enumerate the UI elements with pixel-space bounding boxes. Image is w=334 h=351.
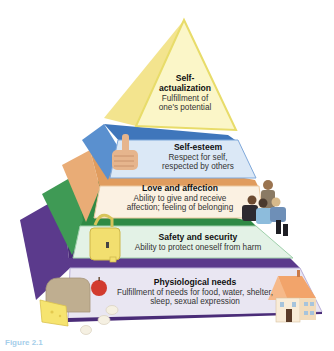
tier-title: Self-esteem [148, 143, 248, 153]
label-love-and-affection: Love and affection Ability to give and r… [112, 184, 248, 213]
tier-description: affection; feeling of belonging [112, 203, 248, 212]
label-physiological-needs: Physiological needs Fulfillment of needs… [110, 278, 280, 307]
label-self-actualization: Self- actualization Fulfillment of one's… [150, 74, 220, 113]
tier-description: Respect for self, [148, 153, 248, 162]
tier-description: Ability to give and receive [112, 194, 248, 203]
maslow-pyramid-diagram: Self- actualization Fulfillment of one's… [0, 0, 334, 351]
tier-title: actualization [150, 84, 220, 94]
tier-description: sleep, sexual expression [110, 297, 280, 306]
tier-title: Physiological needs [110, 278, 280, 288]
tier-title: Safety and security [118, 233, 278, 243]
label-self-esteem: Self-esteem Respect for self, respected … [148, 143, 248, 172]
tier-description: Ability to protect oneself from harm [118, 243, 278, 252]
tier-title: Love and affection [112, 184, 248, 194]
tier-description: Fulfillment of [150, 94, 220, 103]
figure-caption: Figure 2.1 [5, 338, 43, 347]
tier-description: one's potential [150, 103, 220, 112]
tier-description: respected by others [148, 162, 248, 171]
label-safety-and-security: Safety and security Ability to protect o… [118, 233, 278, 252]
tier-description: Fulfillment of needs for food, water, sh… [110, 288, 280, 297]
